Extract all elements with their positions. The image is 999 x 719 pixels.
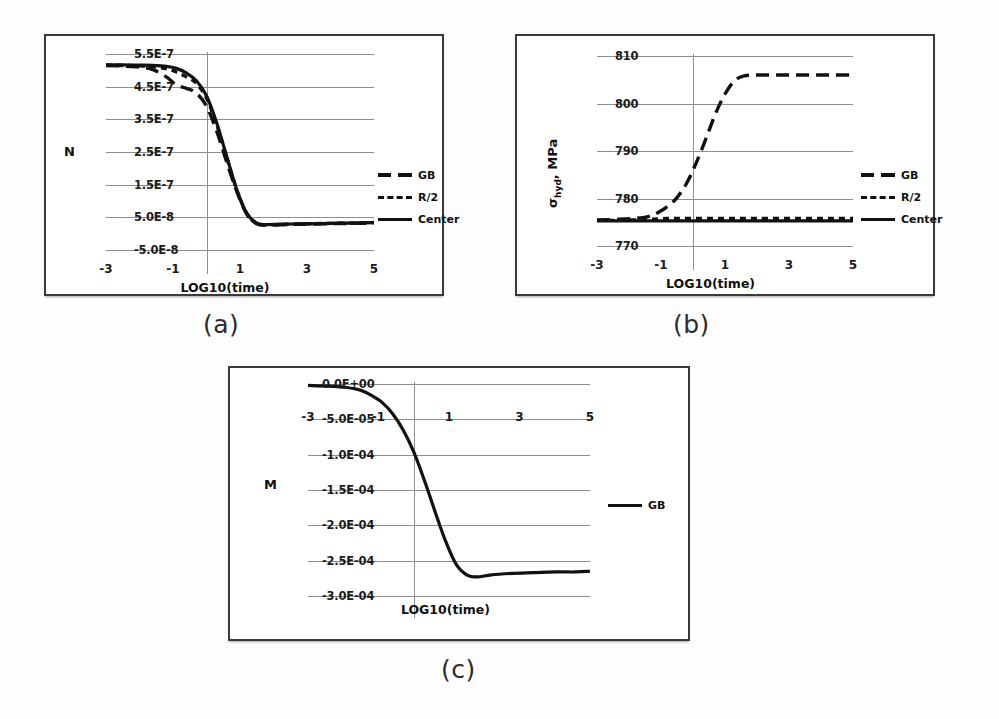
y-tick-label: -5.0E-8 [134, 243, 178, 257]
legend-label: Center [418, 213, 460, 226]
y-tick-label: -1.5E-04 [322, 483, 374, 497]
y-tick-label: 5.5E-7 [134, 47, 174, 61]
x-tick-label: 5 [370, 262, 378, 276]
chart-panel-b: σhyd, MPa 810800790780770-3-1135LOG10(ti… [515, 34, 935, 296]
y-tick-label: 780 [615, 192, 638, 206]
y-tick-label: 790 [615, 144, 638, 158]
legend-label: GB [418, 169, 435, 182]
y-tick-label: -2.5E-04 [322, 554, 374, 568]
y-tick-label: 4.5E-7 [134, 80, 174, 94]
x-tick-label: -1 [166, 262, 179, 276]
figure-root: N 5.5E-74.5E-73.5E-72.5E-71.5E-75.0E-8-5… [0, 0, 999, 719]
legend-swatch-center-icon [861, 218, 895, 221]
x-tick-label: 5 [586, 410, 594, 424]
y-tick-label: 2.5E-7 [134, 145, 174, 159]
x-tick-label: 3 [785, 258, 793, 272]
legend-swatch-gb-icon [861, 173, 895, 177]
x-tick-label: 5 [849, 258, 857, 272]
x-tick-label: 3 [303, 262, 311, 276]
y-tick-label: 0.0E+00 [322, 377, 374, 391]
axis-title-y-text: M [264, 477, 277, 492]
x-tick-label: -1 [372, 410, 385, 424]
legend-item: GB [608, 494, 665, 516]
x-tick-label: 1 [445, 410, 453, 424]
legend-b: GBR/2Center [861, 164, 943, 230]
axis-title-y-text: σhyd, MPa [545, 139, 563, 208]
legend-item: R/2 [861, 186, 943, 208]
y-tick-label: -5.0E-05 [322, 412, 374, 426]
legend-item: GB [861, 164, 943, 186]
legend-c: GB [608, 494, 665, 516]
legend-a: GBR/2Center [378, 164, 460, 230]
y-tick-label: 770 [615, 239, 638, 253]
legend-label: GB [901, 169, 918, 182]
chart-panel-c: M 0.0E+00-5.0E-05-1.0E-04-1.5E-04-2.0E-0… [228, 366, 690, 641]
x-tick-label: 1 [721, 258, 729, 272]
y-tick-label: -3.0E-04 [322, 589, 374, 603]
caption-c: (c) [441, 655, 476, 684]
y-tick-label: 810 [615, 49, 638, 63]
y-tick-label: 1.5E-7 [134, 178, 174, 192]
x-tick-label: -3 [590, 258, 603, 272]
legend-item: Center [861, 208, 943, 230]
x-tick-label: -3 [99, 262, 112, 276]
x-tick-label: 1 [236, 262, 244, 276]
legend-label: R/2 [901, 191, 921, 204]
axis-title-y-text: N [64, 144, 75, 159]
legend-item: R/2 [378, 186, 460, 208]
legend-item: Center [378, 208, 460, 230]
caption-b: (b) [673, 310, 710, 339]
legend-item: GB [378, 164, 460, 186]
y-tick-label: -1.0E-04 [322, 448, 374, 462]
caption-a: (a) [203, 310, 239, 339]
y-tick-label: 3.5E-7 [134, 112, 174, 126]
x-tick-label: 3 [515, 410, 523, 424]
chart-panel-a: N 5.5E-74.5E-73.5E-72.5E-71.5E-75.0E-8-5… [44, 34, 444, 296]
legend-swatch-r2-icon [378, 196, 412, 199]
legend-label: Center [901, 213, 943, 226]
axis-title-x: LOG10(time) [401, 602, 490, 617]
y-tick-label: 800 [615, 97, 638, 111]
x-tick-label: -1 [654, 258, 667, 272]
legend-swatch-r2-icon [861, 196, 895, 199]
y-tick-label: 5.0E-8 [134, 210, 174, 224]
axis-title-x: LOG10(time) [180, 280, 269, 295]
legend-swatch-gb-icon [608, 504, 642, 507]
y-tick-label: -2.0E-04 [322, 518, 374, 532]
legend-label: GB [648, 499, 665, 512]
legend-swatch-gb-icon [378, 173, 412, 177]
x-tick-label: -3 [301, 410, 314, 424]
legend-swatch-center-icon [378, 218, 412, 221]
axis-title-x: LOG10(time) [666, 276, 755, 291]
legend-label: R/2 [418, 191, 438, 204]
